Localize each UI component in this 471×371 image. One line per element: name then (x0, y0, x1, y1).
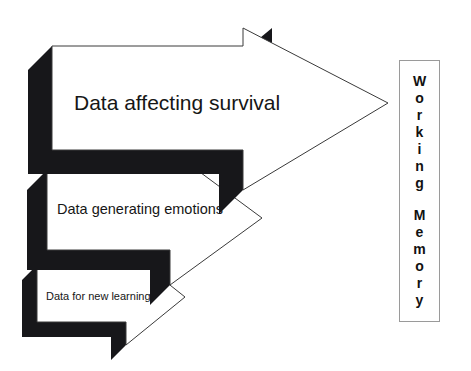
wm-letter: i (418, 141, 422, 158)
wm-letter: W (413, 73, 426, 90)
working-memory-word-working: W o r k i n g (413, 73, 426, 192)
wm-letter: M (414, 207, 426, 224)
wm-letter: m (413, 241, 425, 258)
working-memory-word-memory: M e m o r y (413, 207, 425, 309)
wm-letter: r (417, 107, 422, 124)
wm-letter: o (415, 258, 424, 275)
arrow-emotions-label: Data generating emotions (57, 201, 223, 217)
wm-letter: k (416, 124, 424, 141)
wm-letter: r (417, 275, 422, 292)
wm-letter: n (415, 158, 424, 175)
wm-letter: g (415, 175, 424, 192)
arrow-survival-label: Data affecting survival (74, 91, 280, 114)
wm-letter: o (415, 90, 424, 107)
arrow-learning-label: Data for new learning (46, 290, 151, 302)
wm-letter: y (416, 292, 424, 309)
working-memory-box: W o r k i n g M e m o r y (399, 60, 440, 322)
wm-letter: e (416, 224, 424, 241)
